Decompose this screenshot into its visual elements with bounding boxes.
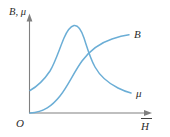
curve-mu-path: [30, 25, 131, 93]
origin-label: O: [16, 117, 24, 129]
x-axis-arrowhead: [144, 110, 152, 116]
x-axis: [30, 110, 153, 116]
y-axis-label: B, μ: [9, 6, 26, 17]
figure-container: B, μ O H B μ: [0, 0, 170, 137]
y-axis-arrowhead: [27, 14, 33, 22]
bh-curve-plot: B, μ O H B μ: [0, 0, 170, 137]
x-axis-label-group: H: [140, 119, 152, 133]
curve-b-path: [30, 35, 129, 113]
curve-label-b: B: [134, 28, 141, 40]
curve-label-mu: μ: [135, 87, 142, 99]
y-axis: [27, 14, 33, 114]
x-axis-label: H: [140, 120, 150, 132]
